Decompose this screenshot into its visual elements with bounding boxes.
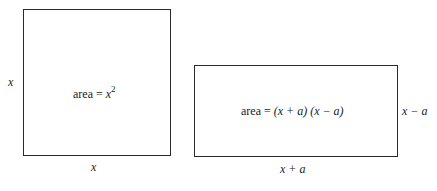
rectangle-area-label: area = (x + a) (x − a) [241,104,344,119]
rectangle-area-prefix: area = [241,104,274,118]
square-shape [23,9,171,156]
rectangle-right-label: x − a [402,104,427,119]
square-area-label: area = x2 [73,84,116,102]
rectangle-bottom-label: x + a [280,162,305,177]
square-area-prefix: area = [73,87,106,101]
square-bottom-label: x [91,160,96,175]
square-left-label: x [8,75,13,90]
square-area-exponent: 2 [111,84,116,94]
rectangle-area-expr: (x + a) (x − a) [274,104,344,118]
